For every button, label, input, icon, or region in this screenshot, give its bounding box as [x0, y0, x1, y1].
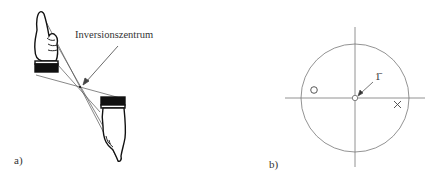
symbol-arrow [358, 82, 373, 96]
panel-b: 1̄ b) [269, 27, 425, 171]
annotation-arrow [83, 46, 118, 85]
cross-marker [394, 101, 401, 108]
inversion-center-symbol [352, 95, 357, 100]
lower-hand-icon [101, 97, 125, 161]
panel-a: Inversionszentrum a) [14, 12, 153, 167]
panel-a-label: a) [14, 154, 23, 167]
symbol-label: 1̄ [375, 70, 383, 82]
inversion-center-point [79, 86, 81, 88]
inversion-diagram: Inversionszentrum a) 1̄ b) [0, 0, 442, 181]
annotation-label: Inversionszentrum [75, 29, 153, 40]
panel-b-label: b) [269, 158, 279, 171]
upper-hand-icon [35, 12, 58, 72]
circle-marker [311, 87, 318, 94]
